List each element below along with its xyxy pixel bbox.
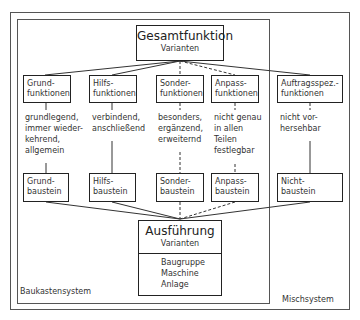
module-label-line1: Nicht- (281, 177, 339, 187)
description-line: grundlegend, (25, 112, 83, 123)
ausfuehrung-items: Baugruppe Maschine Anlage (139, 254, 221, 290)
ausfuehrung-header: Ausführung Varianten (139, 221, 221, 254)
baukastensystem-label: Baukastensystem (20, 287, 91, 296)
description-line: erweiternd (158, 134, 203, 145)
nichtbaustein-box: Nicht- baustein (277, 173, 343, 202)
description-anpass: nicht genau in allen Teilen festlegbar (214, 112, 261, 156)
ausfuehrung-title: Ausführung (139, 224, 221, 239)
hilfsbaustein-box: Hilfs- baustein (89, 173, 136, 202)
ausfuehrung-item: Maschine (161, 268, 221, 279)
grundbaustein-box: Grund- baustein (23, 173, 69, 202)
anpassfunktionen-box: Anpass- funktionen (211, 75, 259, 103)
module-label-line2: baustein (27, 187, 65, 197)
sonderbaustein-box: Sonder- baustein (156, 173, 204, 202)
description-line: anschließend (92, 123, 145, 134)
ausfuehrung-subtitle: Varianten (139, 239, 221, 249)
description-line: allgemein (25, 145, 83, 156)
ausfuehrung-item: Anlage (161, 279, 221, 290)
description-line: hersehbar (280, 123, 321, 134)
function-label-line2: funktionen (281, 89, 339, 99)
function-label-line1: Sonder- (160, 79, 200, 89)
function-label-line1: Anpass- (215, 79, 255, 89)
description-line: Teilen (214, 134, 261, 145)
gesamtfunktion-title: Gesamtfunktion (137, 29, 223, 44)
module-label-line1: Grund- (27, 177, 65, 187)
hilfsfunktionen-box: Hilfs- funktionen (89, 75, 137, 103)
description-line: besonders, (158, 112, 203, 123)
gesamtfunktion-subtitle: Varianten (137, 44, 223, 54)
module-label-line2: baustein (160, 187, 200, 197)
auftragsspez-funktionen-box: Auftragsspez.- funktionen (277, 75, 343, 103)
function-label-line1: Hilfs- (93, 79, 133, 89)
function-label-line2: funktionen (27, 89, 67, 99)
mischsystem-label: Mischsystem (282, 295, 334, 304)
function-label-line2: funktionen (215, 89, 255, 99)
module-label-line2: baustein (215, 187, 255, 197)
function-label-line1: Auftragsspez.- (281, 79, 339, 89)
description-line: in allen (214, 123, 261, 134)
ausfuehrung-item: Baugruppe (161, 257, 221, 268)
anpassbaustein-box: Anpass- baustein (211, 173, 259, 202)
module-label-line1: Hilfs- (93, 177, 132, 187)
description-sonder: besonders, ergänzend, erweiternd (158, 112, 203, 145)
function-label-line1: Grund- (27, 79, 67, 89)
description-auftragsspez: nicht vor- hersehbar (280, 112, 321, 134)
description-line: ergänzend, (158, 123, 203, 134)
ausfuehrung-box: Ausführung Varianten Baugruppe Maschine … (138, 220, 222, 296)
description-line: nicht genau (214, 112, 261, 123)
module-label-line2: baustein (93, 187, 132, 197)
description-line: verbindend, (92, 112, 145, 123)
grundfunktionen-box: Grund- funktionen (23, 75, 71, 103)
description-hilfs: verbindend, anschließend (92, 112, 145, 134)
description-line: kehrend, (25, 134, 83, 145)
module-label-line1: Sonder- (160, 177, 200, 187)
module-label-line2: baustein (281, 187, 339, 197)
gesamtfunktion-box: Gesamtfunktion Varianten (136, 25, 224, 61)
sonderfunktionen-box: Sonder- funktionen (156, 75, 204, 103)
description-grund: grundlegend, immer wieder- kehrend, allg… (25, 112, 83, 156)
function-label-line2: funktionen (160, 89, 200, 99)
description-line: immer wieder- (25, 123, 83, 134)
module-label-line1: Anpass- (215, 177, 255, 187)
description-line: nicht vor- (280, 112, 321, 123)
description-line: festlegbar (214, 145, 261, 156)
function-label-line2: funktionen (93, 89, 133, 99)
